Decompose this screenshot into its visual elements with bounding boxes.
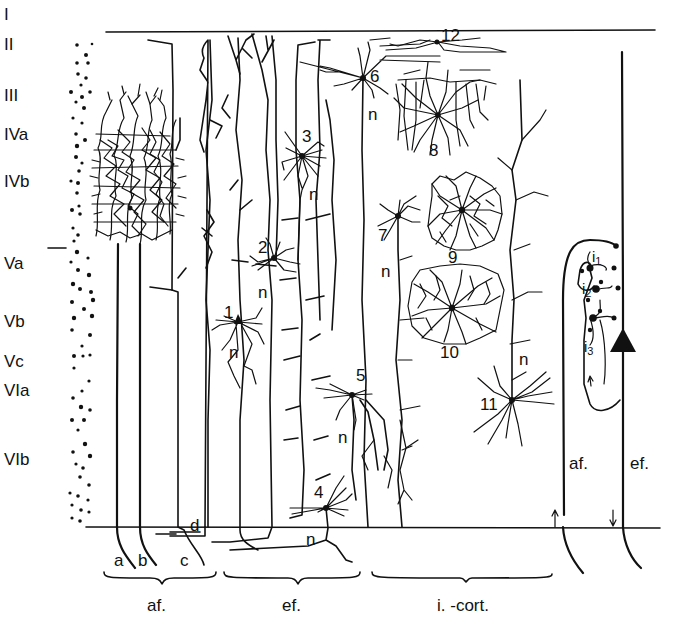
neuron-9: 9 <box>428 172 502 267</box>
interneuron-label-1: i1 <box>592 248 601 267</box>
cortex-diagram: I II III IVa IVb Va Vb Vc VIa VIb <box>0 0 680 631</box>
neuron-label-1: 1 <box>224 303 233 322</box>
fiber-label-c: c <box>180 551 189 570</box>
afferent-fiber-arbor <box>90 84 186 568</box>
pial-surface-line <box>106 30 655 32</box>
neurite-label-3: n <box>309 185 318 204</box>
afferent-fiber-b <box>140 244 156 565</box>
afferent-fiber-c <box>148 40 204 565</box>
layer-label-Vb: Vb <box>4 312 25 331</box>
neuron-10: 10 <box>408 264 504 362</box>
neuron-label-10: 10 <box>440 343 459 362</box>
fiber-label-b: b <box>138 551 147 570</box>
neurite-label-2: n <box>258 283 267 302</box>
afferent-direction-arrow <box>552 510 558 527</box>
neurite-label-7: n <box>381 262 390 281</box>
neuron-2: 2 n <box>250 238 300 302</box>
layer-label-IVb: IVb <box>4 172 30 191</box>
neuron-label-4: 4 <box>314 483 323 502</box>
neurite-label-11: n <box>519 350 528 369</box>
neuron-8: 8 <box>394 62 496 160</box>
circuit-schematic: i1 i2 i3 af. ef. <box>552 52 649 573</box>
group-label-afferent: af. <box>147 596 166 615</box>
neuron-1: 1 n <box>212 303 264 388</box>
neuron-label-6: 6 <box>370 67 379 86</box>
neuron-label-5: 5 <box>356 366 365 385</box>
white-matter-boundary-line <box>86 527 660 528</box>
layer-label-II: II <box>4 35 13 54</box>
neuron-label-11: 11 <box>480 395 498 414</box>
layer-label-VIa: VIa <box>4 381 30 400</box>
neurite-label-5: n <box>338 428 347 447</box>
layer-label-III: III <box>4 86 18 105</box>
neuron-11: 11 n <box>474 80 554 446</box>
neuron-label-8: 8 <box>429 141 438 160</box>
efferent-pyramid-icon <box>610 328 636 352</box>
schematic-label-afferent: af. <box>569 454 588 473</box>
layer-label-VIb: VIb <box>4 450 30 469</box>
neurite-label-4: n <box>306 530 315 549</box>
neuron-label-2: 2 <box>258 238 267 257</box>
intracortical-axons <box>362 420 418 504</box>
group-brackets <box>104 572 552 584</box>
neuron-label-7: 7 <box>378 226 387 245</box>
nissl-cell-column <box>68 43 95 523</box>
neuron-label-12: 12 <box>441 26 460 45</box>
neuron-4: 4 n <box>230 476 352 562</box>
layer-label-Va: Va <box>4 254 24 273</box>
layer-label-Vc: Vc <box>4 352 24 371</box>
afferent-fiber-a <box>117 244 135 568</box>
group-label-efferent: ef. <box>282 596 301 615</box>
neuron-label-3: 3 <box>302 127 311 146</box>
layer-label-IVa: IVa <box>4 125 29 144</box>
fiber-label-d: d <box>190 516 199 535</box>
layer-labels: I II III IVa IVb Va Vb Vc VIa VIb <box>4 5 30 469</box>
neurite-label-1: n <box>229 343 238 362</box>
layer-label-I: I <box>4 5 9 24</box>
efferent-neurons <box>202 34 336 550</box>
neurite-label-6: n <box>368 105 377 124</box>
schematic-label-efferent: ef. <box>630 454 649 473</box>
schematic-efferent-fiber <box>622 52 641 568</box>
afferent-fiber-d <box>156 40 214 536</box>
efferent-direction-arrow <box>610 510 616 526</box>
fiber-label-a: a <box>114 551 124 570</box>
group-label-intracortical: i. -cort. <box>437 596 489 615</box>
neuron-5: 5 n <box>316 366 388 500</box>
